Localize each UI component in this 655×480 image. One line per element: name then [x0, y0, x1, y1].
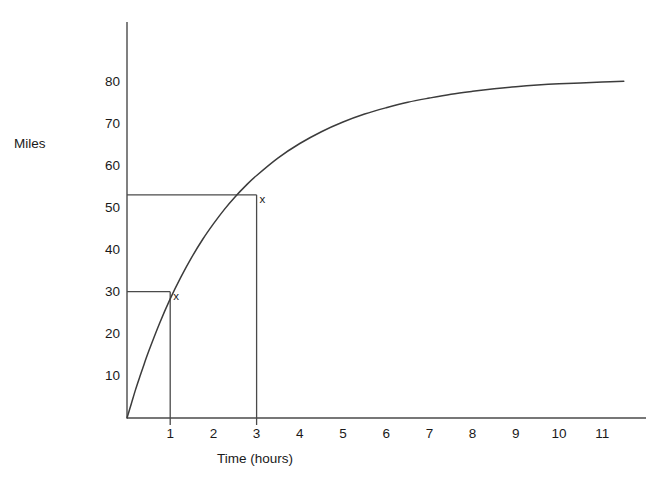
x-axis-title: Time (hours) [217, 452, 293, 466]
x-tick-label: 9 [496, 427, 536, 441]
x-tick-label: 3 [237, 427, 277, 441]
x-tick-label: 6 [366, 427, 406, 441]
x-tick-label: 1 [150, 427, 190, 441]
annotation-point-marker: x [260, 194, 266, 206]
annotation-guides-group [127, 195, 257, 418]
axes-group [127, 22, 646, 418]
distance-curve [127, 81, 624, 418]
x-tick-label: 4 [280, 427, 320, 441]
x-tick-label: 7 [409, 427, 449, 441]
x-tick-label: 8 [453, 427, 493, 441]
y-tick-label: 80 [88, 75, 120, 89]
y-tick-label: 10 [88, 369, 120, 383]
y-tick-label: 30 [88, 285, 120, 299]
y-axis-title: Miles [14, 137, 46, 151]
x-tick-label: 2 [193, 427, 233, 441]
y-tick-label: 20 [88, 327, 120, 341]
x-tick-label: 10 [539, 427, 579, 441]
axis-ticks-group [170, 418, 256, 425]
chart-plot-area [0, 0, 655, 480]
y-tick-label: 50 [88, 201, 120, 215]
y-tick-label: 60 [88, 159, 120, 173]
data-series-group [127, 81, 624, 418]
annotation-point-marker: x [173, 291, 179, 303]
y-tick-label: 70 [88, 117, 120, 131]
x-tick-label: 11 [582, 427, 622, 441]
y-tick-label: 40 [88, 243, 120, 257]
x-tick-label: 5 [323, 427, 363, 441]
chart-container: 1020304050607080 1234567891011 xx Miles … [0, 0, 655, 480]
